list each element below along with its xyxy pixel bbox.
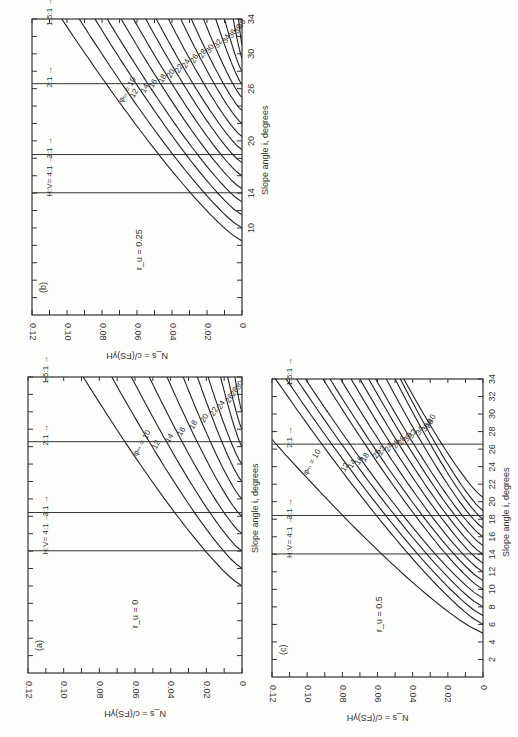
slope-ratio-label: H:V= 4:1 →: [41, 513, 50, 555]
ns-tick-label: 0.12: [28, 323, 38, 341]
slope-ratio-label: H:V= 4:1 →: [285, 516, 294, 558]
chart-panel-a: 0.120.100.080.060.040.020N_s = c/(FS)γHS…: [24, 356, 261, 719]
ru-label: r_u = 0: [130, 600, 140, 628]
slope-tick-label: 18: [487, 514, 497, 524]
phi-curve-40: [404, 379, 483, 497]
slope-tick-label: 14: [487, 549, 497, 559]
slope-tick-label: 32: [487, 392, 497, 402]
slope-tick-label: 20: [487, 497, 497, 507]
slope-ratio-label: 1.5:1 →: [41, 356, 50, 384]
slope-ratio-label: 2:1 →: [45, 66, 54, 87]
ns-tick-label: 0.02: [443, 685, 453, 703]
slope-tick-label: 34: [487, 374, 497, 384]
slope-tick-label: 28: [487, 427, 497, 437]
chart-panel-b: 0.120.100.080.060.040.020N_s = c/(FS)γH1…: [28, 0, 271, 361]
slope-axis-title: Slope angle i, degrees: [260, 105, 270, 195]
ns-tick-label: 0.04: [166, 681, 176, 699]
slope-tick-label: 12: [487, 567, 497, 577]
ns-tick-label: 0: [479, 685, 489, 690]
ns-tick-label: 0.04: [168, 323, 178, 341]
ru-label: r_u = 0.25: [134, 229, 144, 270]
curve-label: φₘ = 10: [301, 447, 323, 476]
slope-axis-title: Slope angle i, degrees: [501, 467, 511, 557]
ns-tick-label: 0.08: [338, 685, 348, 703]
phi-curve-12: [79, 19, 242, 228]
curve-label: 16: [175, 425, 188, 438]
phi-curve-14: [286, 379, 483, 616]
slope-tick-label: 30: [246, 49, 256, 59]
phi-curve-16: [297, 379, 483, 607]
ns-axis-title: N_s = c/(FS)γH: [104, 709, 166, 719]
slope-ratio-label: 3:1 →: [45, 137, 54, 158]
ns-axis-title: N_s = c/(FS)γH: [347, 713, 409, 723]
slope-tick-label: 16: [487, 532, 497, 542]
slope-tick-label: 20: [246, 136, 256, 146]
slope-tick-label: 30: [487, 409, 497, 419]
slope-tick-label: 10: [246, 223, 256, 233]
ru-label: r_u = 0.5: [374, 596, 384, 632]
panel-label: (a): [34, 640, 44, 651]
ns-tick-label: 0: [238, 681, 248, 686]
slope-tick-label: 14: [246, 188, 256, 198]
curve-label: 14: [163, 431, 176, 444]
ns-tick-label: 0: [238, 323, 248, 328]
ns-tick-label: 0.08: [98, 323, 108, 341]
slope-ratio-label: 3:1 →: [285, 498, 294, 519]
ns-tick-label: 0.08: [95, 681, 105, 699]
slope-tick-label: 6: [487, 622, 497, 627]
ns-tick-label: 0.10: [303, 685, 313, 703]
ns-tick-label: 0.10: [63, 323, 73, 341]
slope-tick-label: 24: [487, 462, 497, 472]
slope-ratio-label: 2:1 →: [285, 427, 294, 448]
slope-tick-label: 10: [487, 584, 497, 594]
slope-tick-label: 2: [487, 657, 497, 662]
slope-ratio-label: 1.5:1 →: [285, 358, 294, 386]
ns-tick-label: 0.06: [373, 685, 383, 703]
curve-label: 12: [150, 438, 163, 451]
ns-tick-label: 0.12: [268, 685, 278, 703]
slope-tick-label: 22: [487, 479, 497, 489]
ns-tick-label: 0.04: [408, 685, 418, 703]
panel-label: (c): [278, 645, 288, 656]
slope-ratio-label: 2:1 →: [41, 424, 50, 445]
slope-stability-chart-figure: 0.120.100.080.060.040.020N_s = c/(FS)γH1…: [0, 0, 518, 737]
panel-label: (b): [38, 282, 48, 293]
slope-tick-label: 26: [487, 444, 497, 454]
slope-tick-label: 8: [487, 604, 497, 609]
ns-tick-label: 0.10: [59, 681, 69, 699]
phi-curve-34: [386, 379, 483, 528]
ns-tick-label: 0.06: [131, 681, 141, 699]
slope-ratio-label: H:V= 4:1 →: [45, 155, 54, 197]
phi-curve-10: [62, 19, 242, 241]
slope-tick-label: 4: [487, 639, 497, 644]
ns-tick-label: 0.06: [133, 323, 143, 341]
slope-axis-title: Slope angle i, degrees: [250, 463, 260, 553]
curves-group: [62, 19, 242, 241]
slope-tick-label: 26: [246, 84, 256, 94]
ns-tick-label: 0.02: [203, 323, 213, 341]
ns-axis-title: N_s = c/(FS)γH: [106, 351, 168, 361]
chart-panel-c: 0.120.100.080.060.040.020N_s = c/(FS)γH2…: [219, 358, 511, 723]
slope-tick-label: 34: [246, 14, 256, 24]
ns-tick-label: 0.12: [24, 681, 34, 699]
slope-ratio-label: 3:1 →: [41, 495, 50, 516]
ns-tick-label: 0.02: [202, 681, 212, 699]
slope-ratio-label: 1.5:1 →: [45, 0, 54, 26]
